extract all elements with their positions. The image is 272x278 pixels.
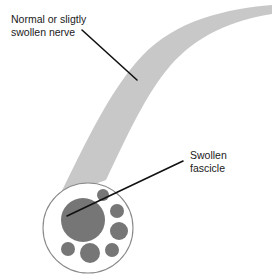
fascicle-upper-right <box>110 204 124 218</box>
fascicle-lower-right <box>105 243 119 257</box>
fascicle-label-line2: fascicle <box>190 162 225 174</box>
fascicle-bottom <box>80 243 100 263</box>
fascicle-label-line1: Swollen <box>190 149 227 161</box>
diagram-background <box>0 0 272 278</box>
nerve-diagram: Normal or sligtly swollen nerve Swollen … <box>0 0 272 278</box>
nerve-label-line1: Normal or sligtly <box>11 13 87 25</box>
fascicle-right <box>110 222 128 240</box>
cross-section-group <box>43 183 133 273</box>
fascicle-label: Swollen fascicle <box>190 149 227 174</box>
figure-root: Normal or sligtly swollen nerve Swollen … <box>0 0 272 278</box>
swollen-fascicle <box>61 198 105 242</box>
nerve-label-line2: swollen nerve <box>11 26 75 38</box>
fascicle-bottom-left <box>61 242 75 256</box>
